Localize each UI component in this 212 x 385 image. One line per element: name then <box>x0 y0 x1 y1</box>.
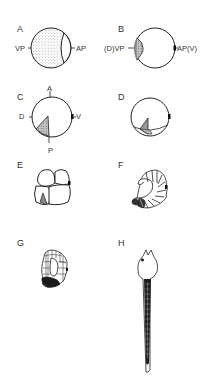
embryo-diagram <box>0 0 212 385</box>
panel-d-embryo <box>131 98 171 136</box>
panel-b-egg <box>128 28 178 68</box>
panel-a-egg <box>28 28 75 68</box>
panel-e-embryo <box>35 170 71 205</box>
panel-c-embryo <box>29 91 76 143</box>
panel-g-embryo <box>42 250 68 287</box>
panel-h-larva <box>138 250 158 372</box>
panel-f-embryo <box>132 170 168 208</box>
